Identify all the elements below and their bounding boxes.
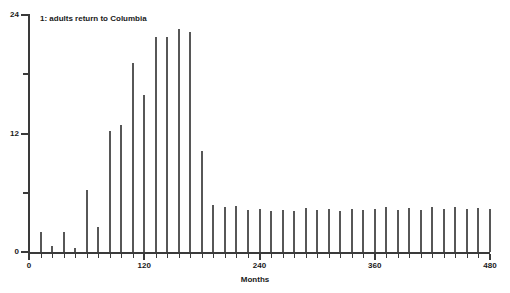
x-minor-tick bbox=[190, 254, 191, 258]
y-axis-line bbox=[28, 14, 30, 254]
bar bbox=[259, 209, 261, 252]
x-minor-tick bbox=[317, 254, 318, 258]
bar bbox=[143, 95, 145, 252]
x-axis-title: Months bbox=[0, 275, 510, 284]
bar bbox=[339, 211, 341, 252]
bar bbox=[293, 211, 295, 252]
x-minor-tick bbox=[283, 254, 284, 258]
bar bbox=[420, 210, 422, 252]
x-minor-tick bbox=[52, 254, 53, 258]
bar bbox=[385, 207, 387, 252]
bar bbox=[489, 209, 491, 252]
x-minor-tick bbox=[271, 254, 272, 258]
x-tick-label: 360 bbox=[368, 261, 381, 270]
x-tick-label: 120 bbox=[138, 261, 151, 270]
bar bbox=[40, 232, 42, 252]
bar bbox=[132, 63, 134, 252]
y-minor-tick bbox=[23, 73, 28, 75]
bar bbox=[155, 37, 157, 252]
x-minor-tick bbox=[225, 254, 226, 258]
x-minor-tick bbox=[167, 254, 168, 258]
bar bbox=[189, 32, 191, 252]
x-major-tick bbox=[143, 254, 145, 260]
x-minor-tick bbox=[478, 254, 479, 258]
bar bbox=[477, 208, 479, 252]
bar bbox=[224, 207, 226, 252]
bar bbox=[374, 209, 376, 252]
x-minor-tick bbox=[340, 254, 341, 258]
x-minor-tick bbox=[121, 254, 122, 258]
x-major-tick bbox=[28, 254, 30, 260]
x-tick-label: 0 bbox=[27, 261, 31, 270]
x-major-tick bbox=[489, 254, 491, 260]
x-minor-tick bbox=[467, 254, 468, 258]
bar bbox=[397, 210, 399, 252]
y-minor-tick bbox=[23, 192, 28, 194]
bar bbox=[408, 208, 410, 252]
plot-area: 1: adults return to Columbia 01224 01202… bbox=[0, 0, 510, 293]
x-minor-tick bbox=[213, 254, 214, 258]
bar bbox=[362, 210, 364, 252]
x-minor-tick bbox=[409, 254, 410, 258]
bar bbox=[63, 232, 65, 252]
x-minor-tick bbox=[398, 254, 399, 258]
x-minor-tick bbox=[179, 254, 180, 258]
x-minor-tick bbox=[294, 254, 295, 258]
x-tick-label: 480 bbox=[483, 261, 496, 270]
x-minor-tick bbox=[248, 254, 249, 258]
bar bbox=[454, 207, 456, 252]
bar bbox=[282, 210, 284, 252]
bar bbox=[86, 190, 88, 252]
bar bbox=[212, 205, 214, 252]
x-minor-tick bbox=[87, 254, 88, 258]
x-minor-tick bbox=[421, 254, 422, 258]
x-minor-tick bbox=[98, 254, 99, 258]
x-minor-tick bbox=[110, 254, 111, 258]
bar bbox=[443, 209, 445, 252]
chart-container: 1: adults return to Columbia 01224 01202… bbox=[0, 0, 510, 293]
chart-annotation: 1: adults return to Columbia bbox=[40, 14, 147, 23]
x-major-tick bbox=[374, 254, 376, 260]
bar bbox=[51, 246, 53, 252]
y-tick-label: 0 bbox=[0, 248, 19, 256]
bar bbox=[466, 209, 468, 252]
bar bbox=[270, 211, 272, 252]
x-major-tick bbox=[259, 254, 261, 260]
bar bbox=[109, 131, 111, 252]
x-minor-tick bbox=[306, 254, 307, 258]
x-minor-tick bbox=[64, 254, 65, 258]
bar bbox=[178, 29, 180, 252]
x-minor-tick bbox=[444, 254, 445, 258]
bar bbox=[235, 206, 237, 252]
bar bbox=[328, 209, 330, 252]
bar bbox=[120, 125, 122, 252]
y-tick bbox=[21, 14, 28, 16]
x-minor-tick bbox=[133, 254, 134, 258]
bar bbox=[305, 208, 307, 252]
x-minor-tick bbox=[75, 254, 76, 258]
x-minor-tick bbox=[363, 254, 364, 258]
x-minor-tick bbox=[455, 254, 456, 258]
y-tick-label: 12 bbox=[0, 130, 19, 138]
x-minor-tick bbox=[202, 254, 203, 258]
bar bbox=[74, 248, 76, 252]
bar bbox=[201, 151, 203, 252]
y-tick bbox=[21, 133, 28, 135]
x-minor-tick bbox=[236, 254, 237, 258]
y-tick-label: 24 bbox=[0, 11, 19, 19]
x-minor-tick bbox=[156, 254, 157, 258]
bar bbox=[316, 210, 318, 252]
bar bbox=[97, 227, 99, 252]
y-tick bbox=[21, 251, 28, 253]
x-minor-tick bbox=[41, 254, 42, 258]
bar bbox=[247, 210, 249, 252]
bar bbox=[431, 207, 433, 252]
x-tick-label: 240 bbox=[253, 261, 266, 270]
x-minor-tick bbox=[329, 254, 330, 258]
x-minor-tick bbox=[386, 254, 387, 258]
x-minor-tick bbox=[352, 254, 353, 258]
x-minor-tick bbox=[432, 254, 433, 258]
bar bbox=[351, 209, 353, 252]
bar bbox=[166, 37, 168, 252]
